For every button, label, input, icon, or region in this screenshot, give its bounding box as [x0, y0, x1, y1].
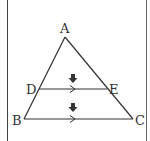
- down-arrow-icon: [69, 74, 78, 83]
- label-d: D: [26, 82, 36, 97]
- down-arrow-icon: [69, 103, 78, 112]
- triangle-diagram: A D E B C: [0, 0, 150, 141]
- label-a: A: [59, 21, 70, 36]
- diagram-frame: A D E B C: [0, 0, 150, 141]
- label-b: B: [12, 113, 22, 128]
- label-e: E: [109, 82, 119, 97]
- label-c: C: [135, 113, 145, 128]
- segment-ab: [24, 37, 65, 119]
